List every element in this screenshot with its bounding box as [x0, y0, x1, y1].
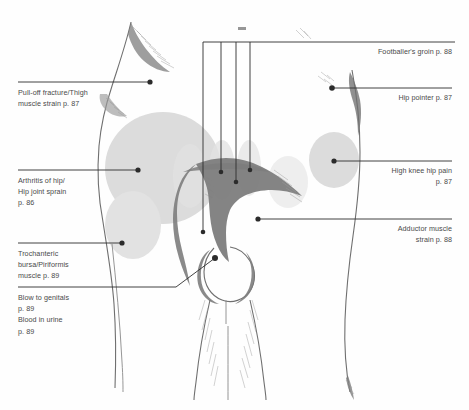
left-iliac-crest: [128, 22, 170, 72]
right-lower-tuft: [346, 376, 354, 400]
dot-blow-to-genitals: [212, 255, 218, 261]
label-high-knee-hip-pain: High knee hip pain p. 87: [302, 165, 452, 187]
center-thigh-hatching: [199, 300, 258, 388]
label-adductor-muscle: Adductor muscle strain p. 88: [302, 223, 452, 245]
label-arthritis-of-hip: Arthritis of hip/ Hip joint sprain p. 86: [18, 175, 168, 209]
center-top-tick: [238, 27, 246, 30]
dot-trochanteric-bursa: [119, 240, 124, 245]
dot-arthritis-of-hip: [135, 167, 140, 172]
center-top-right-spray: [296, 28, 311, 39]
dot-adductor-muscle: [255, 216, 260, 221]
label-footballers-groin: Footballer's groin p. 88: [302, 46, 452, 57]
dot-hip-pointer: [329, 85, 335, 91]
dot-high-knee-hip-pain: [331, 158, 336, 163]
dot-pull-off-fracture: [147, 79, 152, 84]
anatomy-diagram: Pull-off fracture/Thigh muscle strain p.…: [0, 0, 469, 410]
dot-footballers-groin-4: [248, 168, 253, 173]
dot-footballers-groin-2: [219, 170, 224, 175]
label-trochanteric-bursa: Trochanteric bursa/Piriformis muscle p. …: [18, 248, 168, 282]
label-blow-to-genitals: Blow to genitals p. 89 Blood in urine p.…: [18, 292, 168, 337]
dot-footballers-groin-3: [234, 180, 239, 185]
center-right-thigh: [250, 300, 266, 400]
dot-footballers-groin-1: [201, 230, 206, 235]
right-crest-hatching: [318, 72, 334, 85]
label-hip-pointer: Hip pointer p. 87: [302, 92, 452, 103]
label-pull-off-fracture: Pull-off fracture/Thigh muscle strain p.…: [18, 87, 168, 109]
center-genital-shade-right: [235, 252, 255, 304]
